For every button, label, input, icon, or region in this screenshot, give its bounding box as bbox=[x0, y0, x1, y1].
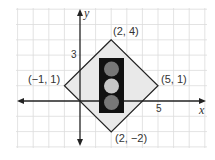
traffic-light-top-lamp bbox=[104, 62, 119, 77]
vertex-label-bottom: (2, −2) bbox=[115, 133, 147, 144]
x-axis-left-arrow-icon bbox=[17, 98, 24, 104]
traffic-light-middle-lamp bbox=[104, 79, 119, 94]
x-axis-label: x bbox=[199, 104, 204, 116]
traffic-light-bottom-lamp bbox=[104, 95, 119, 110]
x-tick-label: 5 bbox=[156, 104, 162, 114]
y-tick-label: 3 bbox=[71, 50, 77, 60]
vertex-label-top: (2, 4) bbox=[113, 26, 139, 37]
vertex-label-right: (5, 1) bbox=[161, 74, 187, 85]
traffic-light bbox=[99, 58, 124, 113]
coordinate-diagram: y x 3 5 (2, 4) (−1, 1) (5, 1) (2, −2) bbox=[0, 0, 215, 160]
y-axis-down-arrow-icon bbox=[77, 139, 83, 146]
y-axis-up-arrow-icon bbox=[77, 9, 83, 16]
y-axis-label: y bbox=[84, 7, 89, 19]
vertex-label-left: (−1, 1) bbox=[28, 74, 60, 85]
